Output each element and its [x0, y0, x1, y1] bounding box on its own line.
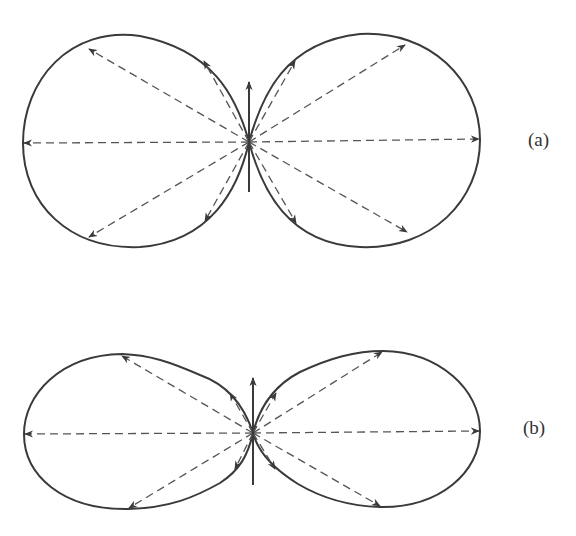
ray-180 [25, 433, 253, 434]
ray-180 [24, 142, 249, 143]
ray-64 [253, 393, 276, 433]
ray-328 [249, 142, 407, 232]
ray-148 [89, 49, 249, 142]
ray-64 [249, 61, 295, 142]
panel-b: (b) [24, 351, 545, 509]
right-lobe [249, 34, 480, 247]
radiation-rays [24, 45, 479, 237]
ray-116 [204, 61, 249, 142]
left-lobe [23, 35, 249, 247]
ray-0 [253, 431, 479, 433]
ray-244 [205, 142, 249, 221]
left-lobe [24, 354, 253, 509]
ray-116 [230, 393, 253, 433]
ray-148 [122, 356, 253, 433]
ray-0 [249, 139, 479, 142]
ray-212 [89, 142, 249, 237]
ray-244 [235, 433, 253, 469]
ray-328 [253, 433, 380, 506]
right-lobe [253, 351, 480, 507]
ray-296 [249, 142, 296, 223]
panel-label-b: (b) [523, 417, 545, 439]
panel-label-a: (a) [528, 129, 549, 151]
diagram-canvas: (a) (b) [0, 0, 576, 536]
panel-a: (a) [23, 34, 549, 247]
ray-32 [249, 45, 405, 142]
